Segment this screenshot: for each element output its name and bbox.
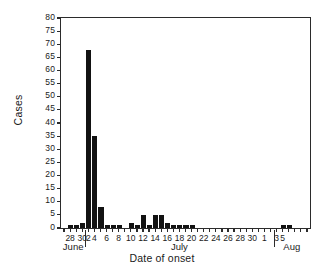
y-tick-label: 40 [45,117,55,127]
y-tick-label: 35 [45,130,55,140]
y-tick-label: 25 [45,156,55,166]
month-label: July [149,241,209,252]
x-tick-mark [270,228,271,232]
y-tick-label: 65 [45,51,55,61]
y-tick-mark [57,227,61,228]
epidemic-curve-figure: Cases 05101520253035404550556065707580 2… [0,0,324,270]
y-tick-mark [57,188,61,189]
x-tick-mark [82,228,83,232]
x-tick-mark [209,228,210,232]
y-tick-mark [57,57,61,58]
x-tick-mark [130,228,131,232]
x-tick-mark [185,228,186,232]
x-tick-mark [155,228,156,232]
y-tick-mark [57,70,61,71]
x-tick-mark [136,228,137,232]
y-tick-label: 80 [45,12,55,22]
y-tick-mark [57,201,61,202]
y-tick-mark [57,122,61,123]
y-tick-label: 50 [45,90,55,100]
y-tick-mark [57,96,61,97]
x-tick-mark [161,228,162,232]
y-tick-mark [57,83,61,84]
plot-area: 05101520253035404550556065707580 2830246… [60,17,311,229]
x-tick-mark [70,228,71,232]
y-tick-label: 55 [45,77,55,87]
y-tick-label: 45 [45,103,55,113]
y-axis-title: Cases [12,70,24,150]
x-tick-mark [63,228,64,232]
x-tick-mark [233,228,234,232]
x-tick-mark [106,228,107,232]
y-tick-label: 75 [45,25,55,35]
y-tick-label: 5 [50,208,55,218]
y-tick-label: 30 [45,143,55,153]
x-tick-mark [142,228,143,232]
x-tick-mark [148,228,149,232]
x-tick-mark [191,228,192,232]
y-tick-mark [57,44,61,45]
x-tick-mark [282,228,283,232]
x-tick-mark [294,228,295,232]
x-tick-mark [276,228,277,232]
x-tick-mark [76,228,77,232]
x-tick-mark [173,228,174,232]
x-tick-mark [197,228,198,232]
x-tick-mark [100,228,101,232]
x-tick-mark [112,228,113,232]
y-tick-mark [57,31,61,32]
x-tick-mark [252,228,253,232]
y-tick-mark [57,175,61,176]
y-tick-label: 20 [45,169,55,179]
x-tick-mark [264,228,265,232]
y-tick-mark [57,214,61,215]
x-tick-mark [288,228,289,232]
x-tick-mark [221,228,222,232]
y-tick-label: 70 [45,38,55,48]
x-tick-mark [240,228,241,232]
y-tick-mark [57,149,61,150]
x-tick-mark [227,228,228,232]
y-tick-label: 15 [45,182,55,192]
y-tick-mark [57,136,61,137]
x-tick-mark [179,228,180,232]
x-tick-mark [203,228,204,232]
y-tick-label: 10 [45,195,55,205]
y-tick-mark [57,162,61,163]
y-tick-label: 60 [45,64,55,74]
x-tick-mark [306,228,307,232]
x-tick-mark [94,228,95,232]
x-axis-title: Date of onset [0,252,324,264]
x-tick-mark [167,228,168,232]
month-separator [85,230,86,247]
y-tick-mark [57,17,61,18]
x-tick-mark [88,228,89,232]
x-tick-mark [124,228,125,232]
month-label: June [43,241,103,252]
x-tick-mark [215,228,216,232]
x-tick-mark [300,228,301,232]
y-tick-mark [57,109,61,110]
month-label: Aug [262,241,322,252]
x-tick-mark [246,228,247,232]
y-tick-label: 0 [50,222,55,232]
x-tick-mark [258,228,259,232]
x-tick-mark [118,228,119,232]
